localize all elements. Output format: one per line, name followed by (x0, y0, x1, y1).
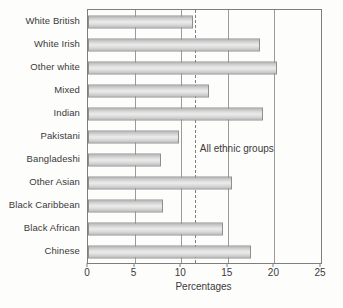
category-label-white-british: White British (0, 9, 84, 32)
tick-label-5: 5 (131, 267, 137, 278)
reference-line-label: All ethnic groups (200, 143, 274, 154)
bar-other-asian (88, 176, 232, 189)
bar-other-white (88, 61, 277, 74)
bar-indian (88, 107, 263, 120)
bar-row-black-african (88, 217, 321, 240)
category-label-black-african: Black African (0, 216, 84, 239)
x-axis-title: Percentages (87, 281, 320, 292)
tick-label-0: 0 (84, 267, 90, 278)
bar-row-other-white (88, 56, 321, 79)
tick-label-10: 10 (175, 267, 186, 278)
bar-bangladeshi (88, 153, 161, 166)
bar-white-british (88, 15, 193, 28)
category-label-bangladeshi: Bangladeshi (0, 147, 84, 170)
category-label-pakistani: Pakistani (0, 124, 84, 147)
bar-row-white-irish (88, 33, 321, 56)
category-axis: White BritishWhite IrishOther whiteMixed… (0, 9, 84, 262)
bar-row-mixed (88, 79, 321, 102)
category-label-mixed: Mixed (0, 78, 84, 101)
bar-chinese (88, 245, 251, 258)
category-label-indian: Indian (0, 101, 84, 124)
category-label-other-white: Other white (0, 55, 84, 78)
bar-row-white-british (88, 10, 321, 33)
bar-mixed (88, 84, 209, 97)
bar-black-caribbean (88, 199, 163, 212)
bar-chart-figure: White BritishWhite IrishOther whiteMixed… (0, 0, 343, 308)
tick-label-25: 25 (314, 267, 325, 278)
bar-white-irish (88, 38, 260, 51)
category-label-white-irish: White Irish (0, 32, 84, 55)
bar-row-indian (88, 102, 321, 125)
bar-row-black-caribbean (88, 194, 321, 217)
category-label-black-caribbean: Black Caribbean (0, 193, 84, 216)
bar-pakistani (88, 130, 179, 143)
bar-black-african (88, 222, 223, 235)
tick-label-15: 15 (221, 267, 232, 278)
category-label-chinese: Chinese (0, 239, 84, 262)
bar-row-other-asian (88, 171, 321, 194)
tick-label-20: 20 (268, 267, 279, 278)
plot-area: All ethnic groups (87, 9, 322, 264)
category-label-other-asian: Other Asian (0, 170, 84, 193)
bar-row-chinese (88, 240, 321, 263)
x-axis-tick-labels: 0510152025 (87, 267, 320, 279)
